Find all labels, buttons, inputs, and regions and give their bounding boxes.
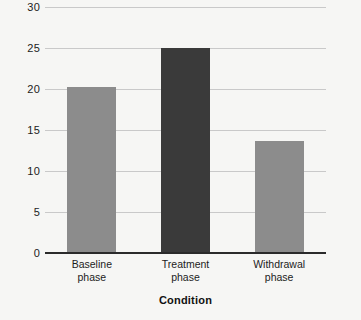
plot-area — [45, 7, 326, 253]
y-axis-tick-label: 25 — [0, 43, 40, 54]
x-axis-tick-label-line: Baseline — [45, 258, 139, 271]
y-axis-tick-label: 20 — [0, 84, 40, 95]
bar — [161, 48, 210, 253]
x-axis-tick-label-line: phase — [45, 271, 139, 284]
x-axis-tick-label-line: phase — [232, 271, 326, 284]
x-axis-tick-label: Baselinephase — [45, 258, 139, 284]
x-axis-tick-label-line: phase — [139, 271, 233, 284]
bar — [255, 141, 304, 253]
x-axis-line — [45, 252, 326, 254]
x-axis-title: Condition — [45, 294, 326, 306]
y-axis-tick-label: 10 — [0, 166, 40, 177]
x-axis-tick-label: Treatmentphase — [139, 258, 233, 284]
gridline — [45, 7, 326, 8]
y-axis-tick-label: 30 — [0, 2, 40, 13]
bar — [67, 87, 116, 253]
bar-chart-figure: Condition 051015202530BaselinephaseTreat… — [0, 0, 361, 320]
x-axis-tick-label: Withdrawalphase — [232, 258, 326, 284]
x-axis-tick-label-line: Withdrawal — [232, 258, 326, 271]
x-axis-tick-label-line: Treatment — [139, 258, 233, 271]
y-axis-tick-label: 15 — [0, 125, 40, 136]
y-axis-tick-label: 5 — [0, 207, 40, 218]
y-axis-tick-label: 0 — [0, 248, 40, 259]
